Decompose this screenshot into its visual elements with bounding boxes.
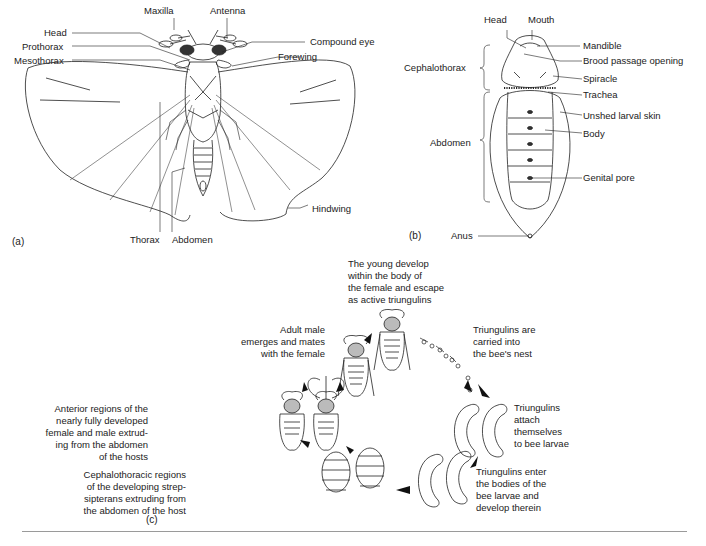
label-genital-pore: Genital pore: [583, 172, 635, 184]
stage-text-line: Triungulins: [514, 402, 569, 414]
stage-text-line: Triungulins are: [473, 324, 535, 336]
label-anus: Anus: [451, 230, 473, 242]
label-thorax: Thorax: [130, 234, 160, 246]
stage-adult-male: Adult male emerges and mates with the fe…: [241, 324, 325, 360]
bee-larva: [418, 454, 442, 507]
label-abdomen-a: Abdomen: [172, 234, 213, 246]
host-bees: [322, 448, 384, 492]
label-mandible: Mandible: [583, 40, 622, 52]
bee-larva: [446, 451, 470, 504]
stage-triungulins-carried: Triungulins are carried into the bee's n…: [473, 324, 535, 360]
label-trachea: Trachea: [583, 89, 618, 101]
label-head-b: Head: [484, 14, 507, 26]
panel-a-label: (a): [12, 236, 24, 248]
label-forewing: Forewing: [278, 51, 317, 63]
label-compound-eye: Compound eye: [310, 36, 374, 48]
stage-text-line: themselves: [514, 426, 569, 438]
stage-text-line: ing from the abdomen: [46, 439, 148, 451]
bottom-divider: [22, 531, 687, 532]
label-unshed-larval-skin: Unshed larval skin: [583, 110, 661, 122]
label-cephalothorax: Cephalothorax: [404, 62, 466, 74]
stage-text-line: of the developing strep-: [84, 481, 186, 493]
panel-b-leader-lines: [478, 30, 582, 236]
stage-text-line: Anterior regions of the: [46, 403, 148, 415]
stage-text-line: the bee's nest: [473, 348, 535, 360]
bee-larva: [454, 404, 478, 457]
stage-text-line: with the female: [241, 348, 325, 360]
stage-text-line: emerges and mates: [241, 336, 325, 348]
bee-larva: [482, 404, 506, 457]
stage-anterior-regions: Anterior regions of the nearly fully dev…: [46, 403, 148, 463]
stage-text-line: Adult male: [241, 324, 325, 336]
extruding-adults: [280, 391, 339, 450]
stage-text-line: Cephalothoracic regions: [84, 469, 186, 481]
stage-text-line: to bee larvae: [514, 438, 569, 450]
panel-c-label: (c): [146, 514, 158, 526]
stage-text-line: within the body of: [348, 270, 444, 282]
label-spiracle: Spiracle: [583, 73, 617, 85]
label-hindwing: Hindwing: [312, 203, 351, 215]
stage-text-line: The young develop: [348, 258, 444, 270]
adult-female-top: [374, 309, 410, 370]
stage-text-line: attach: [514, 414, 569, 426]
stage-text-line: the bodies of the: [476, 478, 546, 490]
label-body: Body: [583, 128, 605, 140]
stage-text-line: sipterans extruding from: [84, 493, 186, 505]
label-mesothorax: Mesothorax: [14, 55, 64, 67]
female-strepsipteran-drawing: [490, 36, 570, 239]
label-mouth: Mouth: [528, 14, 554, 26]
label-prothorax: Prothorax: [22, 41, 63, 53]
stage-text-line: bee larvae and: [476, 490, 546, 502]
stage-text-line: develop therein: [476, 502, 546, 514]
stage-text-line: of the hosts: [46, 451, 148, 463]
stage-young-develop: The young develop within the body of the…: [348, 258, 444, 306]
stage-text-line: as active triungulins: [348, 294, 444, 306]
panel-b-label: (b): [409, 230, 421, 242]
label-maxilla: Maxilla: [144, 5, 174, 17]
stage-cephalothoracic: Cephalothoracic regions of the developin…: [84, 469, 186, 517]
label-brood-passage-opening: Brood passage opening: [583, 55, 683, 67]
label-abdomen-b: Abdomen: [430, 137, 471, 149]
stage-text-line: nearly fully developed: [46, 415, 148, 427]
stage-triungulins-attach: Triungulins attach themselves to bee lar…: [514, 402, 569, 450]
stage-text-line: carried into: [473, 336, 535, 348]
stage-text-line: the female and escape: [348, 282, 444, 294]
triungulins: [420, 338, 472, 392]
stage-triungulins-enter: Triungulins enter the bodies of the bee …: [476, 466, 546, 514]
stage-text-line: Triungulins enter: [476, 466, 546, 478]
label-antenna: Antenna: [210, 5, 245, 17]
label-head: Head: [44, 27, 67, 39]
stage-text-line: female and male extrud-: [46, 427, 148, 439]
stage-text-line: the abdomen of the host: [84, 505, 186, 517]
